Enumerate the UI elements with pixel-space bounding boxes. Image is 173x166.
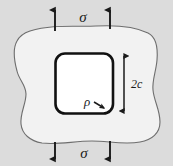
figure-canvas: σ σ 2c ρ bbox=[0, 0, 173, 166]
bottom-stress-label: σ bbox=[80, 145, 88, 161]
hole-height-label: 2c bbox=[131, 77, 143, 91]
top-stress-label: σ bbox=[79, 9, 87, 25]
stress-diagram-figure: σ σ 2c ρ bbox=[0, 0, 173, 166]
corner-radius-label: ρ bbox=[83, 94, 90, 109]
